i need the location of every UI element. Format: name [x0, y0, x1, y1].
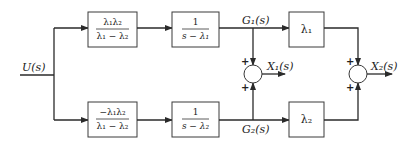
top-gain-numerator: λ₁λ₂	[103, 17, 122, 27]
bottom-integrator-numerator: 1	[193, 107, 199, 117]
summing-junction-1	[244, 65, 262, 83]
sum2-top-sign: +	[346, 56, 354, 67]
bottom-gain-denominator: λ₁ − λ₂	[97, 121, 129, 131]
g1-label: G₁(s)	[242, 14, 269, 27]
top-gain-denominator: λ₁ − λ₂	[97, 31, 129, 41]
input-signal: U(s)	[20, 28, 54, 120]
summing-junction-2	[349, 65, 367, 83]
bottom-gain-block: −λ₁λ₂ λ₁ − λ₂	[88, 102, 137, 137]
bottom-gain-numerator: −λ₁λ₂	[99, 107, 126, 117]
g2-label: G₂(s)	[242, 123, 269, 136]
sum1-top-sign: +	[241, 56, 249, 67]
bottom-integrator-block: 1 s − λ₂	[172, 102, 219, 137]
lambda2-block: λ₂	[289, 102, 324, 137]
bottom-branch: −λ₁λ₂ λ₁ − λ₂ 1 s − λ₂ G₂(s) λ₂	[54, 83, 358, 137]
top-integrator-denominator: s − λ₁	[182, 31, 209, 41]
top-integrator-block: 1 s − λ₁	[172, 12, 219, 47]
lambda1-block: λ₁	[289, 12, 324, 47]
top-gain-block: λ₁λ₂ λ₁ − λ₂	[88, 12, 137, 47]
input-label: U(s)	[22, 61, 46, 74]
lambda1-label: λ₁	[301, 23, 312, 36]
summer-2: + + X₂(s)	[346, 56, 397, 93]
bottom-integrator-denominator: s − λ₂	[182, 121, 210, 131]
lambda2-label: λ₂	[301, 113, 312, 126]
sum1-bottom-sign: +	[241, 82, 249, 93]
block-diagram: U(s) λ₁λ₂ λ₁ − λ₂ 1 s − λ₁ G₁(s) λ₁	[0, 0, 410, 147]
summer-1: + + X₁(s)	[241, 56, 293, 93]
x1-label: X₁(s)	[266, 60, 293, 73]
sum2-bottom-sign: +	[346, 82, 354, 93]
top-branch: λ₁λ₂ λ₁ − λ₂ 1 s − λ₁ G₁(s) λ₁	[54, 12, 358, 65]
top-integrator-numerator: 1	[193, 17, 199, 27]
x2-label: X₂(s)	[370, 60, 397, 73]
